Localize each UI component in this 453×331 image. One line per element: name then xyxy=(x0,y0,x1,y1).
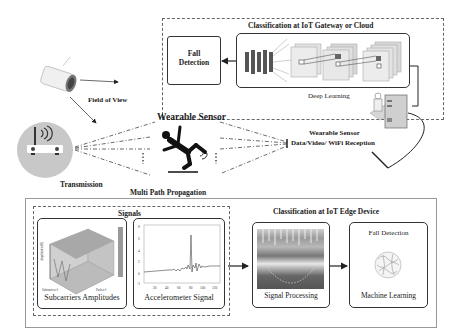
svg-text:0: 0 xyxy=(138,272,140,276)
machine-learning-panel: Fall Detection Machine Learning xyxy=(349,222,428,308)
svg-text:40: 40 xyxy=(165,286,169,290)
multipath-label: Multi Path Propagation xyxy=(130,188,206,197)
reception-line1: Wearable Sensor xyxy=(309,129,360,137)
svg-text:-2: -2 xyxy=(137,282,140,286)
ml-caption: Machine Learning xyxy=(350,291,427,300)
spectrogram-image xyxy=(257,229,324,289)
svg-text:100: 100 xyxy=(200,286,206,290)
wearable-sensor-label: Wearable Sensor xyxy=(157,112,226,122)
accelerometer-caption: Accelerometer Signal xyxy=(134,293,224,302)
svg-text:6: 6 xyxy=(138,237,140,241)
fall-detection-box: Fall Detection xyxy=(167,36,221,85)
svg-text:20: 20 xyxy=(153,286,157,290)
subcarriers-caption: Subcarriers Amplitudes xyxy=(38,293,126,302)
edge-box-title: Classification at IoT Edge Device xyxy=(273,207,379,216)
svg-text:Packet #: Packet # xyxy=(96,288,107,292)
svg-text:80: 80 xyxy=(189,286,193,290)
signals-title: Signals xyxy=(118,209,141,218)
signal-processing-caption: Signal Processing xyxy=(253,291,329,300)
deep-learning-label: Deep Learning xyxy=(308,92,350,100)
subcarriers-panel: Amplitude (dB) Subcarriers # Packet # Su… xyxy=(37,218,127,309)
svg-text:Amplitude (dB): Amplitude (dB) xyxy=(40,242,44,261)
svg-text:60: 60 xyxy=(177,286,181,290)
cloud-box-title: Classification at IoT Gateway or Cloud xyxy=(248,21,373,30)
fall-detection-line2: Detection xyxy=(168,58,220,67)
field-of-view-label: Field of View xyxy=(88,96,127,104)
transmission-label: Transmission xyxy=(60,180,103,189)
accelerometer-panel: 864 20-2 204060 80100120 Accelerometer S… xyxy=(133,218,225,309)
reception-line2: Data/Video/ WiFi Reception xyxy=(291,139,375,147)
cnn-network-icon xyxy=(237,34,409,87)
signal-processing-panel: Signal Processing xyxy=(252,222,330,308)
svg-text:8: 8 xyxy=(138,225,140,229)
deep-learning-network-box xyxy=(236,33,410,88)
svg-text:4: 4 xyxy=(138,249,140,253)
svg-text:2: 2 xyxy=(138,260,140,264)
svg-text:Subcarriers #: Subcarriers # xyxy=(42,288,58,292)
fall-detection-line1: Fall xyxy=(168,49,220,58)
router-icon xyxy=(17,122,73,178)
svg-text:120: 120 xyxy=(212,286,218,290)
